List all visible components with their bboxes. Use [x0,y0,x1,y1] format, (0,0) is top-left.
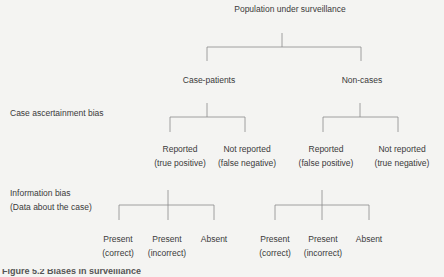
node-label-line2: (incorrect) [148,248,186,259]
node-reported-true-positive: Reported (true positive) [154,144,206,169]
row-label-case-ascertainment-bias: Case ascertainment bias [10,108,104,119]
row-label-information-bias: Information bias (Data about the case) [10,188,92,213]
node-label-line2: (true positive) [154,158,206,169]
node-label-line2: (false positive) [299,158,354,169]
node-right-absent: Absent [356,234,382,245]
node-label-line2: (incorrect) [304,248,342,259]
node-label-line1: Present [259,234,291,245]
row-label-line1: Information bias [10,188,92,199]
node-label-line1: Reported [154,144,206,155]
node-label-line1: Present [148,234,186,245]
node-label-line2: (correct) [259,248,291,259]
node-label-line1: Not reported [218,144,276,155]
node-right-present-incorrect: Present (incorrect) [304,234,342,259]
node-right-present-correct: Present (correct) [259,234,291,259]
node-left-absent: Absent [201,234,227,245]
node-label-line1: Reported [299,144,354,155]
row-label-line2: (Data about the case) [10,202,92,213]
node-not-reported-false-negative: Not reported (false negative) [218,144,276,169]
node-label-line1: Present [304,234,342,245]
node-case-patients: Case-patients [183,75,235,86]
node-label-line2: (false negative) [218,158,276,169]
node-label-line2: (correct) [102,248,134,259]
node-label-line1: Absent [356,234,382,245]
node-left-present-incorrect: Present (incorrect) [148,234,186,259]
node-root: Population under surveillance [234,4,346,15]
node-non-cases: Non-cases [342,75,383,86]
node-label-line1: Present [102,234,134,245]
node-label-line1: Not reported [375,144,430,155]
node-label-line1: Absent [201,234,227,245]
node-left-present-correct: Present (correct) [102,234,134,259]
node-label-line2: (true negative) [375,158,430,169]
node-reported-false-positive: Reported (false positive) [299,144,354,169]
node-not-reported-true-negative: Not reported (true negative) [375,144,430,169]
